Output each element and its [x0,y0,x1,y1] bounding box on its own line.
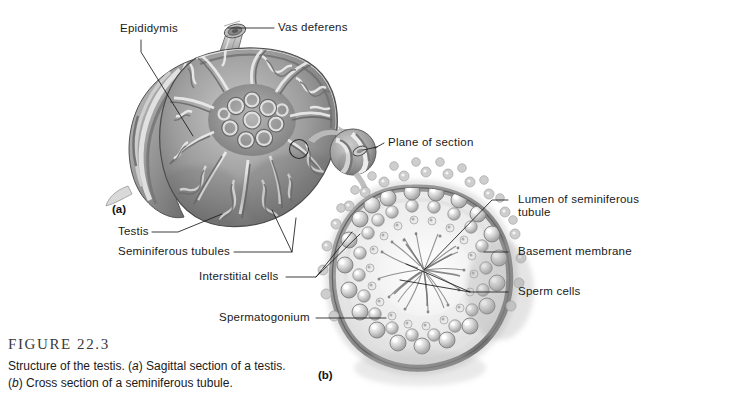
caption-1-pre: Structure of the testis. ( [8,359,132,373]
leader-seminiferous-2 [272,210,292,252]
caption-line-1: Structure of the testis. (a) Sagittal se… [8,358,428,375]
label-interstitial-cells: Interstitial cells [199,270,279,284]
label-sperm-cells: Sperm cells [518,285,581,299]
label-epididymis: Epididymis [120,22,178,36]
label-lumen-line2: tubule [518,206,551,220]
testis-body-illustration [154,46,360,237]
label-vas-deferens: Vas deferens [278,21,348,35]
figure-page: Epididymis Vas deferens Plane of section… [0,0,738,406]
panel-label-a: (a) [112,203,126,215]
label-basement-membrane: Basement membrane [518,245,632,259]
label-seminiferous-tubules: Seminiferous tubules [118,245,230,259]
figure-caption: FIGURE 22.3 Structure of the testis. (a)… [8,336,428,391]
caption-1-italic: a [132,359,139,373]
plane-of-section-inset [330,129,376,178]
caption-2-italic: b [12,376,19,390]
figure-number: FIGURE 22.3 [8,336,428,353]
label-lumen-line1: Lumen of seminiferous [518,193,639,207]
caption-text: Structure of the testis. (a) Sagittal se… [8,358,428,391]
caption-line-2: (b) Cross section of a seminiferous tubu… [8,375,428,392]
label-testis: Testis [118,225,149,239]
label-spermatogonium: Spermatogonium [219,311,310,325]
caption-2-post: ) Cross section of a seminiferous tubule… [19,376,233,390]
label-plane-of-section: Plane of section [388,136,474,150]
caption-1-post: ) Sagittal section of a testis. [139,359,286,373]
testis-sagittal-illustration [106,21,366,237]
